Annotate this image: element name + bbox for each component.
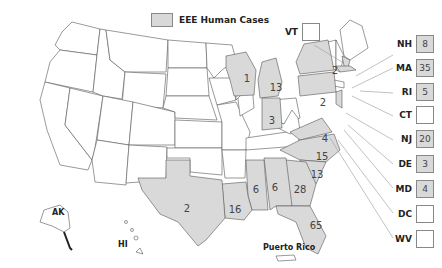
puerto-rico-shape	[276, 255, 296, 261]
value-WI: 1	[244, 73, 250, 84]
value-SC: 13	[311, 169, 324, 180]
callout-MA: MA 35	[392, 59, 434, 77]
label-puerto-rico: Puerto Rico	[263, 243, 315, 252]
label-alaska: AK	[52, 208, 64, 217]
us-map: 1 13 3 2 2 4 15 13 28 6 6 16 2 65	[0, 0, 442, 268]
callout-VT: VT	[278, 23, 320, 41]
callout-DE: DE 3	[392, 155, 434, 173]
value-MS: 6	[253, 184, 259, 195]
label-hawaii: HI	[118, 240, 128, 249]
value-VA: 4	[322, 133, 328, 144]
callout-NH: NH 8	[392, 35, 434, 53]
legend-label: EEE Human Cases	[179, 15, 269, 25]
value-NY: 2	[332, 65, 338, 76]
value-IN: 3	[269, 115, 275, 126]
callout-CT: CT	[392, 106, 434, 124]
value-MI: 13	[270, 82, 283, 93]
value-TX: 2	[184, 203, 190, 214]
callout-NJ: NJ 20	[392, 130, 434, 148]
legend-swatch	[151, 13, 173, 27]
legend: EEE Human Cases	[151, 13, 269, 27]
value-GA: 28	[294, 184, 307, 195]
value-PA: 2	[320, 97, 326, 108]
value-LA: 16	[229, 204, 242, 215]
value-AL: 6	[272, 182, 278, 193]
callout-WV: WV	[392, 230, 434, 248]
callout-MD: MD 4	[392, 180, 434, 198]
value-FL: 65	[310, 220, 323, 231]
callout-RI: RI 5	[392, 83, 434, 101]
callout-DC: DC	[392, 205, 434, 223]
value-NC: 15	[316, 151, 329, 162]
